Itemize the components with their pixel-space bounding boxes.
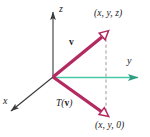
vector-tv <box>53 77 109 117</box>
axis-x <box>11 77 53 111</box>
vector-v <box>53 31 109 77</box>
figure-canvas <box>0 0 150 137</box>
vector-v-shaft <box>53 37 102 77</box>
vector-projection-figure: z y x (x, y, z) (x, y, 0) v T(v) <box>0 0 150 137</box>
axis-x-line <box>11 77 53 111</box>
vector-tv-shaft <box>53 77 102 112</box>
